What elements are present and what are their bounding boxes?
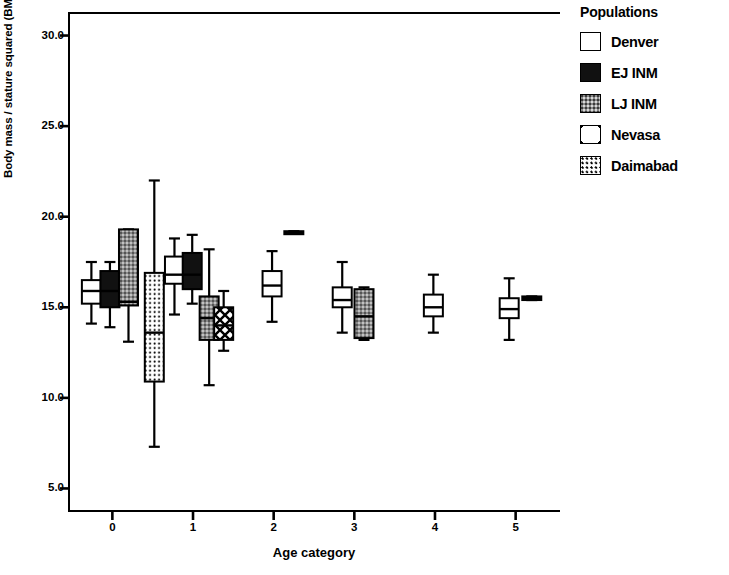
legend-label: EJ INM [611, 65, 658, 81]
legend-items: DenverEJ INMLJ INMNevasaDaimabad [572, 26, 728, 181]
y-tick-label: 10.0 [16, 391, 64, 403]
x-tick-label: 3 [339, 521, 369, 533]
y-tick-label: 25.0 [16, 119, 64, 131]
x-tick-label: 4 [420, 521, 450, 533]
y-tick-label: 30.0 [16, 29, 64, 41]
legend-item: EJ INM [580, 57, 728, 88]
y-tick-label: 20.0 [16, 210, 64, 222]
legend-swatch-lj-inm [580, 94, 601, 113]
x-axis-title: Age category [68, 545, 560, 560]
y-tick-label: 15.0 [16, 300, 64, 312]
legend-swatch-denver [580, 32, 601, 51]
legend-swatch-nevasa [580, 125, 601, 144]
legend-item: Daimabad [580, 150, 728, 181]
legend-label: Daimabad [611, 158, 678, 174]
legend-label: LJ INM [611, 96, 657, 112]
legend-label: Denver [611, 34, 658, 50]
x-tick-label: 5 [501, 521, 531, 533]
legend-item: Denver [580, 26, 728, 57]
legend-label: Nevasa [611, 127, 660, 143]
legend-swatch-ej-inm [580, 63, 601, 82]
legend: Populations DenverEJ INMLJ INMNevasaDaim… [572, 4, 728, 181]
y-tick-label: 5.0 [16, 481, 64, 493]
plot-area [68, 12, 560, 512]
chart-figure: Body mass / stature squared (BMI) 5.010.… [0, 0, 729, 575]
x-tick-label: 0 [97, 521, 127, 533]
y-axis-tick-labels: 5.010.015.020.025.030.0 [8, 0, 64, 575]
x-tick-label: 1 [178, 521, 208, 533]
x-tick-label: 2 [259, 521, 289, 533]
legend-item: LJ INM [580, 88, 728, 119]
legend-swatch-daimabad [580, 156, 601, 175]
legend-item: Nevasa [580, 119, 728, 150]
legend-title: Populations [580, 4, 728, 20]
